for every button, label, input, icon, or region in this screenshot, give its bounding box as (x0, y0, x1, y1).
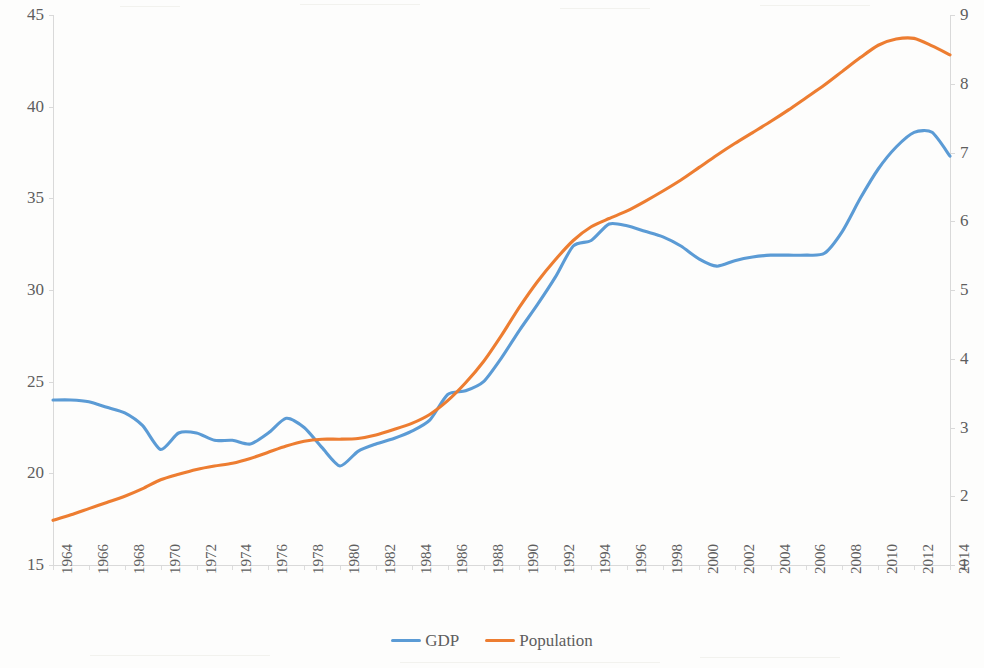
right-axis-tick-label: 8 (960, 75, 969, 92)
legend-item-population[interactable]: Population (485, 632, 593, 649)
scan-artifact (90, 655, 270, 656)
x-axis-tick-mark (484, 566, 485, 570)
gdp-line (53, 131, 950, 466)
x-axis-tick-mark (519, 566, 520, 570)
right-axis-tick-mark (951, 428, 955, 429)
scan-artifact (300, 4, 420, 5)
scan-artifact (120, 6, 180, 7)
scan-artifact (400, 662, 660, 663)
population-line (53, 38, 950, 520)
left-axis-tick-label: 25 (0, 373, 44, 390)
x-axis-tick-mark (376, 566, 377, 570)
left-axis-tick-label: 35 (0, 189, 44, 206)
right-axis-tick-mark (951, 290, 955, 291)
left-axis-tick-label: 40 (0, 98, 44, 115)
x-axis-tick-mark (197, 566, 198, 570)
x-axis-tick-mark (950, 566, 951, 570)
x-axis-tick-mark (663, 566, 664, 570)
x-axis-tick-mark (268, 566, 269, 570)
right-axis-tick-label: 6 (960, 212, 969, 229)
right-axis-tick-mark (951, 153, 955, 154)
right-axis-tick-label: 3 (960, 419, 969, 436)
x-axis-tick-mark (448, 566, 449, 570)
right-axis-tick-label: 5 (960, 281, 969, 298)
right-axis-tick-mark (951, 84, 955, 85)
x-axis-tick-mark (53, 566, 54, 570)
series-canvas (53, 15, 950, 565)
x-axis-tick-label: 2014 (956, 544, 973, 574)
right-axis-tick-label: 4 (960, 350, 969, 367)
right-axis-tick-mark (951, 221, 955, 222)
x-axis-tick-mark (412, 566, 413, 570)
right-axis-tick-mark (951, 565, 955, 566)
x-axis-tick-mark (914, 566, 915, 570)
scan-artifact (760, 5, 870, 6)
dual-axis-line-chart: 15202530354045 123456789 196419661968197… (0, 0, 984, 668)
legend-label-population: Population (519, 632, 593, 649)
x-axis-tick-mark (771, 566, 772, 570)
x-axis-tick-mark (699, 566, 700, 570)
legend-label-gdp: GDP (425, 632, 459, 649)
legend-item-gdp[interactable]: GDP (391, 632, 459, 649)
left-axis-tick-label: 15 (0, 556, 44, 573)
left-axis-tick-label: 45 (0, 6, 44, 23)
x-axis-tick-mark (304, 566, 305, 570)
x-axis-tick-mark (842, 566, 843, 570)
x-axis-tick-mark (878, 566, 879, 570)
x-axis-tick-mark (555, 566, 556, 570)
legend-swatch-gdp (391, 639, 421, 642)
x-axis-tick-mark (340, 566, 341, 570)
right-axis-tick-label: 2 (960, 487, 969, 504)
x-axis-tick-mark (232, 566, 233, 570)
plot-area (53, 15, 950, 565)
scan-artifact (700, 657, 840, 658)
right-axis-tick-label: 7 (960, 144, 969, 161)
left-axis-tick-label: 30 (0, 281, 44, 298)
left-axis-tick-label: 20 (0, 464, 44, 481)
x-axis-tick-mark (627, 566, 628, 570)
x-axis-tick-mark (161, 566, 162, 570)
right-axis-tick-mark (951, 15, 955, 16)
right-axis-tick-mark (951, 359, 955, 360)
x-axis-tick-mark (89, 566, 90, 570)
x-axis-tick-mark (591, 566, 592, 570)
x-axis-tick-mark (125, 566, 126, 570)
right-axis-tick-label: 9 (960, 6, 969, 23)
x-axis-tick-mark (806, 566, 807, 570)
legend-swatch-population (485, 639, 515, 642)
chart-legend: GDP Population (0, 632, 984, 649)
right-axis-tick-mark (951, 496, 955, 497)
scan-artifact (560, 8, 650, 9)
x-axis-tick-mark (735, 566, 736, 570)
